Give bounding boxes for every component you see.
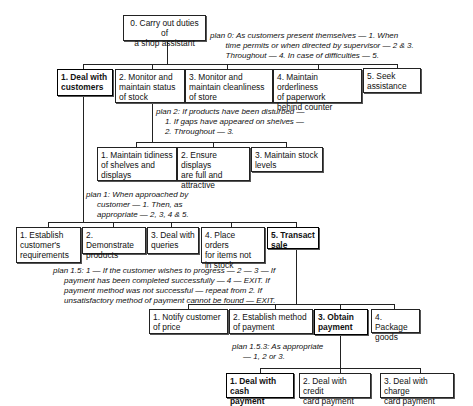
- task-label: 1. Deal with cash payment: [230, 376, 290, 406]
- task-label: 4. Maintain orderliness of paperwork beh…: [277, 72, 358, 112]
- task-label: 0. Carry out duties of a shop assistant: [127, 18, 202, 48]
- task-2-2-displays: 2. Ensure displays are full and attracti…: [177, 147, 250, 181]
- task-label: 5. Transact sale: [271, 230, 315, 250]
- task-label: 1. Maintain tidiness of shelves and disp…: [101, 150, 173, 180]
- connector: [152, 102, 153, 142]
- task-3-monitor-cleanliness: 3. Monitor and maintain cleanliness of s…: [185, 69, 273, 103]
- task-label: 1. Deal with customers: [61, 72, 109, 92]
- task-label: 1. Notify customer of price: [153, 312, 224, 332]
- plan-2: plan 2: If products have been disturbed …: [156, 107, 305, 137]
- task-label: 2. Establish method of payment: [233, 312, 309, 332]
- task-1-2-demonstrate-products: 2. Demonstrate products: [82, 227, 146, 254]
- plan-1-5-3: plan 1.5.3: As appropriate — 1, 2 or 3.: [232, 342, 323, 362]
- task-1-deal-with-customers: 1. Deal with customers: [57, 69, 113, 96]
- task-label: 2. Ensure displays are full and attracti…: [181, 150, 246, 190]
- task-label: 3. Maintain stock levels: [255, 150, 319, 170]
- connector: [296, 248, 297, 304]
- task-2-3-stock-levels: 3. Maintain stock levels: [251, 147, 323, 172]
- task-1-5-1-notify-price: 1. Notify customer of price: [149, 309, 228, 334]
- task-label: 2. Deal with credit card payment: [303, 376, 367, 406]
- connector: [48, 222, 296, 223]
- task-1-5-3-2-credit-card-payment: 2. Deal with credit card payment: [299, 373, 371, 398]
- task-2-monitor-stock: 2. Monitor and maintain status of stock: [115, 69, 185, 103]
- task-5-seek-assistance: 5. Seek assistance: [363, 68, 421, 93]
- connector: [83, 64, 397, 65]
- connector: [340, 334, 341, 368]
- task-1-5-2-establish-method: 2. Establish method of payment: [229, 309, 313, 334]
- connector: [136, 142, 286, 143]
- connector: [83, 95, 84, 222]
- task-0-root: 0. Carry out duties of a shop assistant: [123, 15, 206, 41]
- task-1-5-3-1-cash-payment: 1. Deal with cash payment: [226, 373, 294, 398]
- task-label: 4. Place orders for items not in stock: [205, 230, 261, 270]
- task-4-maintain-paperwork: 4. Maintain orderliness of paperwork beh…: [273, 69, 362, 103]
- task-label: 1. Establish customer's requirements: [20, 230, 77, 260]
- plan-1-5: plan 1.5: 1 — If the customer wishes to …: [53, 266, 276, 306]
- task-label: 5. Seek assistance: [367, 71, 417, 91]
- task-1-5-3-3-charge-card-payment: 3. Deal with charge card payment: [380, 373, 454, 398]
- task-label: 3. Deal with charge card payment: [384, 376, 450, 406]
- task-label: 3. Obtain payment: [318, 312, 364, 332]
- task-1-4-place-orders: 4. Place orders for items not in stock: [201, 227, 265, 263]
- task-2-1-tidiness: 1. Maintain tidiness of shelves and disp…: [97, 147, 177, 181]
- task-1-5-transact-sale: 5. Transact sale: [267, 227, 319, 249]
- task-1-3-deal-with-queries: 3. Deal with queries: [147, 227, 199, 254]
- plan-1: plan 1: When approached by customer — 1.…: [86, 190, 189, 220]
- task-label: 2. Demonstrate products: [86, 230, 142, 260]
- task-label: 3. Monitor and maintain cleanliness of s…: [189, 72, 269, 102]
- task-label: 2. Monitor and maintain status of stock: [119, 72, 181, 102]
- task-label: 3. Deal with queries: [151, 230, 195, 250]
- task-1-5-3-obtain-payment: 3. Obtain payment: [314, 309, 368, 335]
- task-label: 4. Package goods: [375, 312, 416, 342]
- task-1-1-establish-requirements: 1. Establish customer's requirements: [16, 227, 81, 263]
- plan-0: plan 0: As customers present themselves …: [210, 31, 414, 61]
- task-1-5-4-package-goods: 4. Package goods: [371, 309, 420, 333]
